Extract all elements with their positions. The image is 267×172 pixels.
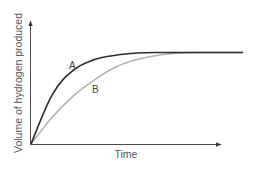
y-axis-title: Volume of hydrogen produced bbox=[12, 13, 24, 153]
x-axis-title: Time bbox=[115, 148, 138, 160]
curve-a bbox=[31, 52, 243, 144]
curve-b-label: B bbox=[92, 84, 99, 95]
chart: A B Time Volume of hydrogen produced bbox=[0, 0, 267, 172]
curve-b bbox=[31, 52, 243, 144]
curve-a-label: A bbox=[69, 60, 76, 71]
